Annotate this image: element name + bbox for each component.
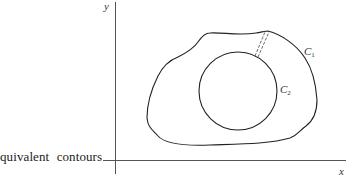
caption-word-1: quivalent (0, 149, 49, 164)
c1-label: C1 (304, 46, 315, 59)
c2-subscript: 2 (287, 89, 291, 97)
y-axis-label: y (104, 1, 109, 12)
c1-subscript: 1 (311, 51, 315, 59)
outer-contour-c1 (147, 31, 317, 145)
c2-label: C2 (280, 84, 291, 97)
figure-caption: quivalent contours (0, 149, 102, 165)
inner-contour-c2 (199, 52, 277, 130)
caption-word-2: contours (57, 149, 103, 164)
cut-line-right (258, 32, 269, 57)
x-axis-label: x (339, 166, 344, 177)
